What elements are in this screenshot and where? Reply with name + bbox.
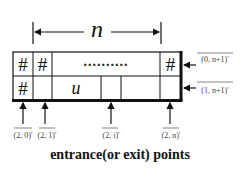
cell-u: u: [72, 78, 81, 98]
entry-label: (2, 1)': [38, 131, 57, 140]
grid: # # .......... # # u: [12, 51, 183, 102]
cell-hash: #: [18, 54, 28, 75]
entry-label: (0, n+1)': [201, 55, 229, 64]
entry-label: (1, n+1)': [201, 86, 229, 95]
bottom-entry-points: (2, 0)' (2, 1)' (2, i)' (2, n)': [14, 103, 181, 140]
entry-label: (2, i)': [103, 131, 121, 140]
grid-diagram: n # # .......... # # u (0, n+1)' (1, n+1…: [0, 0, 240, 170]
caption: entrance(or exit) points: [0, 147, 240, 163]
cell-ellipsis: ..........: [84, 54, 129, 69]
width-label: n: [91, 16, 103, 42]
width-dimension: n: [33, 16, 161, 44]
entry-label: (2, n)': [162, 131, 181, 140]
entry-label: (2, 0)': [14, 131, 33, 140]
cell-hash: #: [166, 54, 176, 75]
cell-hash: #: [18, 78, 28, 99]
cell-hash: #: [38, 54, 48, 75]
right-entry-points: (0, n+1)' (1, n+1)': [184, 53, 233, 95]
